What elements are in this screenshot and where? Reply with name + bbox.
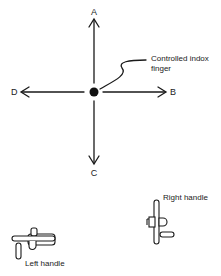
label-a: A — [91, 7, 97, 17]
left-handle-icon — [12, 228, 55, 259]
finger-dot — [90, 88, 99, 97]
finger-label-line2: finger — [151, 64, 171, 73]
direction-diagram: A B C D Controlled indox finger Right ha… — [0, 0, 221, 276]
finger-label-line1: Controlled indox — [151, 54, 209, 63]
label-b: B — [170, 87, 176, 97]
right-handle-label: Right handle — [163, 193, 208, 202]
leader-line — [100, 60, 146, 89]
label-c: C — [91, 168, 98, 178]
label-d: D — [11, 87, 18, 97]
right-handle-icon — [147, 200, 174, 244]
left-handle-label: Left handle — [25, 259, 65, 268]
